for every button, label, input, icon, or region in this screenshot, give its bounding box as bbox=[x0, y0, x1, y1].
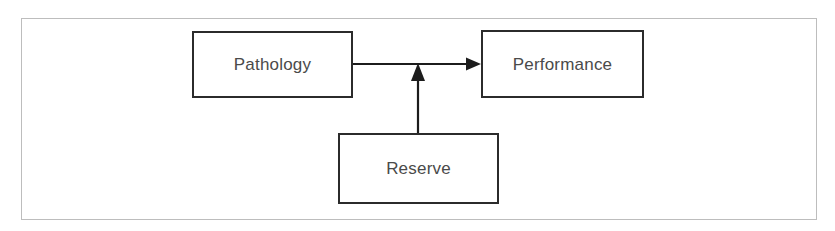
node-reserve-label: Reserve bbox=[386, 160, 451, 177]
node-pathology-label: Pathology bbox=[234, 56, 311, 73]
node-reserve: Reserve bbox=[338, 133, 499, 204]
node-performance-label: Performance bbox=[513, 56, 613, 73]
node-performance: Performance bbox=[481, 30, 644, 98]
node-pathology: Pathology bbox=[192, 31, 353, 98]
diagram-canvas: Pathology Performance Reserve bbox=[0, 0, 835, 231]
